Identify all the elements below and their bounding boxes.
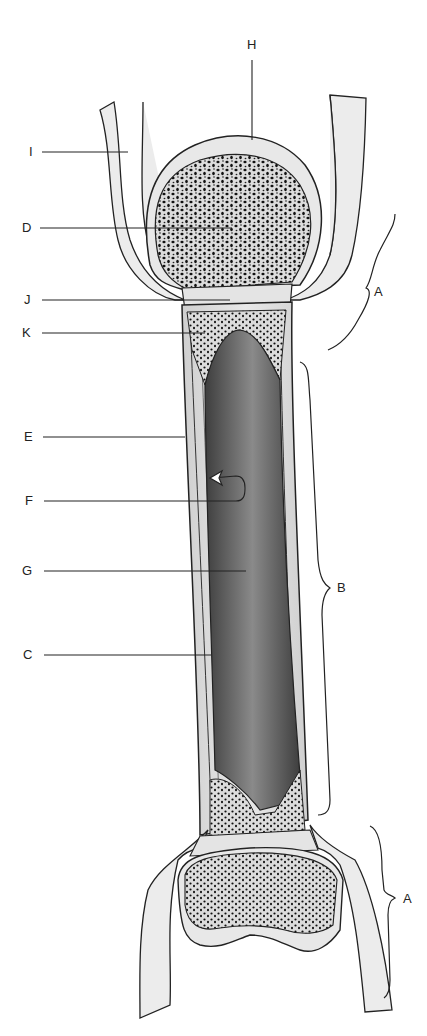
label-h: H (247, 38, 256, 52)
label-i: I (29, 145, 33, 159)
label-g: G (22, 564, 32, 578)
label-a-bottom: A (403, 892, 412, 906)
long-bone-diagram (0, 0, 427, 1036)
label-c: C (23, 648, 32, 662)
label-e: E (24, 430, 33, 444)
label-b: B (337, 581, 346, 595)
label-d: D (22, 221, 31, 235)
label-k: K (22, 326, 31, 340)
proximal-epiphysis (155, 154, 310, 290)
label-j: J (24, 293, 31, 307)
label-f: F (25, 494, 33, 508)
distal-epiphysis (185, 853, 337, 933)
label-a-top: A (374, 285, 383, 299)
